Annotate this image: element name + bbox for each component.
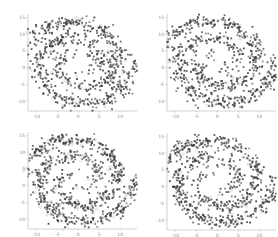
y-tick-label: 5	[161, 48, 164, 53]
scatter-panel-bottom-right: -10-5051015-10-50510	[139, 119, 278, 237]
x-tick-label: -5	[194, 233, 199, 237]
y-tick-label: -5	[21, 200, 26, 205]
spiral-points	[166, 14, 276, 109]
y-tick-label: 10	[19, 150, 25, 155]
spiral-points	[166, 134, 276, 229]
y-tick-label: 15	[19, 133, 25, 138]
scatter-plot: -10-5051015-10-50510	[139, 0, 278, 118]
scatter-panel-bottom-left: -10-5051015-10-50510	[0, 118, 139, 236]
scatter-plot: -10-5051015-10-50510	[0, 118, 139, 236]
y-tick-label: 0	[161, 65, 164, 70]
spiral-points	[27, 133, 138, 228]
y-tick-label: -10	[157, 218, 164, 223]
x-tick-label: -5	[55, 232, 60, 237]
y-tick-label: 15	[158, 134, 164, 139]
y-tick-label: 10	[158, 151, 164, 156]
overlay-points	[26, 16, 136, 108]
y-tick-label: -5	[21, 82, 26, 87]
x-tick-label: 5	[237, 233, 240, 237]
y-tick-label: 5	[161, 167, 164, 172]
x-tick-label: -10	[172, 233, 179, 237]
x-tick-label: 10	[117, 232, 123, 237]
x-tick-label: 0	[77, 232, 80, 237]
y-tick-label: 10	[19, 32, 25, 37]
data-points	[166, 134, 278, 229]
y-tick-label: 5	[22, 48, 25, 53]
y-tick-label: 0	[22, 65, 25, 70]
scatter-plot: -10-5051015-10-50510	[0, 0, 139, 118]
y-tick-label: -10	[18, 217, 25, 222]
x-tick-label: -10	[33, 232, 40, 237]
y-tick-label: -5	[160, 82, 165, 87]
y-tick-label: 0	[22, 183, 25, 188]
scatter-plot: -10-5051015-10-50510	[139, 119, 278, 237]
scatter-panel-top-right: -10-5051015-10-50510	[139, 0, 278, 118]
scatter-panel-top-left: -10-5051015-10-50510	[0, 0, 139, 118]
y-tick-label: -10	[18, 99, 25, 104]
data-points	[166, 14, 276, 109]
x-tick-label: 10	[256, 233, 262, 237]
data-points	[26, 15, 138, 111]
y-tick-label: 10	[158, 32, 164, 37]
y-tick-label: -5	[160, 201, 165, 206]
y-tick-label: 15	[158, 15, 164, 20]
spiral-points	[27, 15, 138, 111]
x-tick-label: 0	[216, 233, 219, 237]
data-points	[22, 133, 138, 230]
y-tick-label: -10	[157, 99, 164, 104]
y-tick-label: 15	[19, 15, 25, 20]
y-tick-label: 0	[161, 184, 164, 189]
x-tick-label: 5	[98, 232, 101, 237]
